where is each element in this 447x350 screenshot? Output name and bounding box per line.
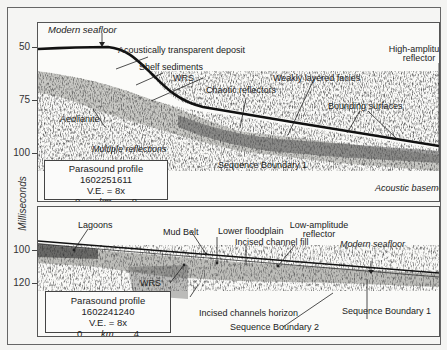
label-sequence-boundary-1-bottom: Sequence Boundary 1 [342,307,431,316]
scale-unit: km [99,196,112,202]
top-profile-infobox: Parasound profile 1602251611 V.E. = 8x 0… [44,160,168,200]
label-high-amplitude-line2: reflector [383,54,440,63]
y-tick-75: 75 [6,94,30,105]
label-wrs: WRS [173,74,194,83]
y-tick-100: 100 [6,147,30,158]
vertical-exaggeration: V.E. = 8x [45,185,167,196]
bottom-seismic-panel: Lagoons Mud Belt Lower floodplain Incise… [37,206,440,337]
label-aeolianite: Aeolianite [60,115,100,124]
label-incised-channels-horizon: Incised channels horizon [199,309,298,318]
profile-id: Parasound profile 1602251611 [45,163,167,185]
label-multiple-reflections: Multiple reflections [92,145,167,154]
label-sequence-boundary-1: Sequence Boundary 1 [218,161,307,170]
label-weakly-layered-facies: Weakly layered facies [273,74,360,83]
label-chaotic-reflectors: Chaotic reflectors [206,86,276,95]
label-shelf-sediments: Shelf sediments [139,63,203,72]
label-mud-belt: Mud Belt [163,228,199,237]
label-low-amplitude-reflector: Low-amplitude reflector [286,221,352,240]
label-bounding-surfaces: Bounding surfaces [328,102,403,111]
y-tick-120-bottom: 120 [6,277,30,288]
label-lagoons: Lagoons [78,221,113,230]
scale-end: 8 [132,196,137,202]
label-sequence-boundary-2: Sequence Boundary 2 [230,323,319,332]
scale-start: 0 [77,328,82,337]
profile-id: Parasound profile 1602241240 [46,295,170,317]
label-acoustically-transparent: Acoustically transparent deposit [118,46,245,55]
label-lower-floodplain: Lower floodplain [218,227,284,236]
label-high-amplitude-reflector: High-amplitude reflector [383,45,440,64]
scale-unit: km [101,328,114,337]
scale-start: 0 [75,196,80,202]
scale-bar: 0 km 8 [75,196,137,202]
vertical-exaggeration: V.E. = 8x [46,317,170,328]
y-tick-50: 50 [6,41,30,52]
label-acoustic-basement: Acoustic basement [375,184,440,193]
label-modern-seafloor: Modern seafloor [48,25,117,35]
label-modern-seafloor-bottom: Modern seafloor [340,240,405,249]
top-seismic-panel: Modern seafloor Acoustically transparent… [37,22,440,202]
bottom-profile-infobox: Parasound profile 1602241240 V.E. = 8x 0… [45,291,171,333]
y-axis-label: Milliseconds [17,172,28,236]
scale-bar: 0 km 4 [77,328,139,337]
y-tick-100-bottom: 100 [6,244,30,255]
scale-end: 4 [134,328,139,337]
label-wrs-bottom: WRS [140,279,161,288]
